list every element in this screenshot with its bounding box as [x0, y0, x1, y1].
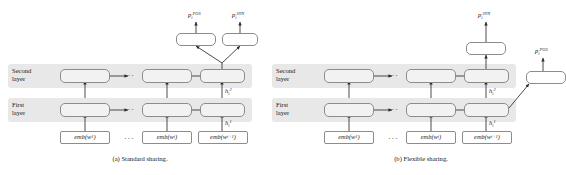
pos-label-sup: POS: [193, 11, 201, 16]
connection-wires-b: [281, 0, 561, 175]
emb-w1-prefix: emb(w: [74, 134, 91, 140]
second-layer-ellipsis-b: ···: [388, 72, 398, 80]
hidden-state-label-h2-b: hi2: [489, 88, 496, 96]
emb-wi1-b-prefix: emb(w: [474, 134, 491, 140]
emb-wi1-b-sub: i+1: [491, 135, 498, 140]
second-layer-label-line1: Second: [12, 67, 31, 74]
embedding-ellipsis-b: ···: [388, 135, 398, 143]
embedding-box-wi1-b: emb(wi+1): [462, 131, 512, 144]
second-layer-cell-i-b: [406, 69, 456, 83]
hidden-state-label-h1-b: hi1: [489, 120, 496, 128]
first-layer-cell-i1: [200, 103, 245, 117]
first-layer-ellipsis-b: ···: [388, 106, 398, 114]
emb-wi1-suffix: ): [234, 134, 236, 140]
emb-wi1-b-suffix: ): [498, 134, 500, 140]
hidden-state-label-h1: hi1: [225, 120, 232, 128]
second-layer-label-b: Second layer: [276, 67, 295, 82]
subfigure-flexible-sharing: Second layer First layer ··· ··· ··· piS…: [281, 0, 561, 175]
h2-b-sup: 2: [494, 87, 496, 92]
second-layer-label-b-line1: Second: [276, 67, 295, 74]
pos-label-b-sup: POS: [540, 47, 548, 52]
embedding-box-w1: emb(w1): [60, 131, 110, 144]
first-layer-cell-1-b: [324, 103, 374, 117]
emb-wi-b-prefix: emb(w: [421, 134, 438, 140]
syn-output-box: [222, 33, 258, 46]
subfigure-standard-sharing: Second layer First layer ··· ··· ··· piP…: [0, 0, 280, 175]
first-layer-cell-1: [60, 103, 110, 117]
emb-wi-prefix: emb(w: [157, 134, 174, 140]
pos-output-box: [176, 33, 216, 46]
embedding-box-wi1: emb(wi+1): [198, 131, 248, 144]
syn-label-b-sup: SYN: [483, 11, 491, 16]
emb-w1-b-suffix: ): [358, 134, 360, 140]
emb-wi1-prefix: emb(w: [210, 134, 227, 140]
embedding-box-w1-b: emb(w1): [324, 131, 374, 144]
first-layer-label-b-line1: First: [276, 101, 288, 108]
pos-output-box-b: [526, 71, 566, 84]
second-layer-cell-i1: [200, 69, 245, 83]
emb-w1-b-prefix: emb(w: [338, 134, 355, 140]
embedding-ellipsis: ···: [124, 135, 134, 143]
emb-wi-suffix: ): [175, 134, 177, 140]
second-layer-cell-1: [60, 69, 110, 83]
emb-w1-suffix: ): [94, 134, 96, 140]
connection-wires: [0, 0, 280, 175]
second-layer-cell-1-b: [324, 69, 374, 83]
syn-probability-label-b: piSYN: [478, 12, 490, 20]
h1-b-sup: 1: [494, 119, 496, 124]
hidden-state-label-h2: hi2: [225, 88, 232, 96]
first-layer-label-b: First layer: [276, 101, 289, 116]
second-layer-label: Second layer: [12, 67, 31, 82]
embedding-box-wi: emb(wi): [142, 131, 192, 144]
second-layer-cell-i: [142, 69, 192, 83]
first-layer-cell-i1-b: [464, 103, 509, 117]
first-layer-label-b-line2: layer: [276, 109, 289, 116]
first-layer-label-line1: First: [12, 101, 24, 108]
first-layer-label-line2: layer: [12, 109, 25, 116]
emb-wi1-sub: i+1: [227, 135, 234, 140]
second-layer-cell-i1-b: [464, 69, 509, 83]
first-layer-ellipsis: ···: [124, 106, 134, 114]
h2-sup: 2: [230, 87, 232, 92]
subfigure-a-caption: (a) Standard sharing.: [0, 155, 280, 162]
syn-output-box-b: [466, 42, 506, 55]
emb-wi-b-suffix: ): [439, 134, 441, 140]
first-layer-label: First layer: [12, 101, 25, 116]
embedding-box-wi-b: emb(wi): [406, 131, 456, 144]
first-layer-cell-i: [142, 103, 192, 117]
second-layer-label-line2: layer: [12, 75, 25, 82]
syn-probability-label: piSYN: [232, 12, 244, 20]
first-layer-cell-i-b: [406, 103, 456, 117]
h1-sup: 1: [230, 119, 232, 124]
pos-probability-label: piPOS: [188, 12, 201, 20]
subfigure-b-caption: (b) Flexible sharing.: [281, 155, 561, 162]
second-layer-ellipsis: ···: [124, 72, 134, 80]
pos-probability-label-b: piPOS: [535, 48, 548, 56]
second-layer-label-b-line2: layer: [276, 75, 289, 82]
syn-label-sup: SYN: [237, 11, 245, 16]
